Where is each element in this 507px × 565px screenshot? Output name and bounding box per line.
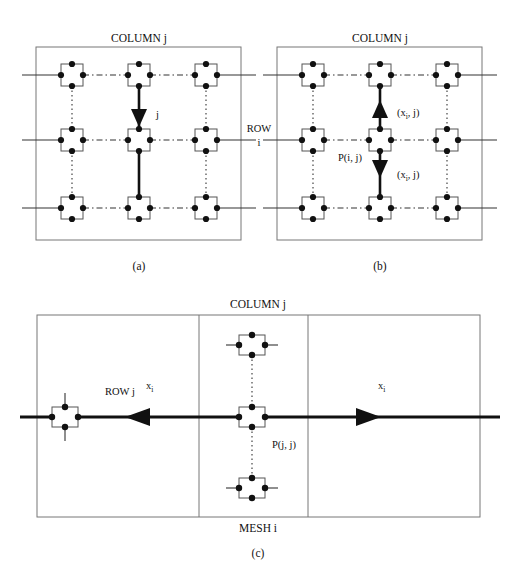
panel-a-arrow-label: j [155, 109, 159, 120]
panel-a: COLUMN j [22, 32, 256, 273]
mesh-architecture-diagram: COLUMN j [0, 0, 507, 565]
panel-b-caption: (b) [373, 260, 387, 273]
panel-c-right-arrow [356, 408, 381, 426]
panel-c-left-flow-label: xi [146, 380, 153, 394]
panel-a-cells [58, 61, 220, 222]
panel-b-up-arrow [372, 100, 388, 118]
panel-a-header: COLUMN j [111, 32, 167, 45]
panel-b-cells [299, 61, 461, 222]
panel-b-node-label: P(i, j) [338, 152, 362, 164]
panel-c-left-arrow [125, 408, 150, 426]
figure-container: COLUMN j [0, 0, 507, 565]
panel-c-row-label: ROW j [105, 386, 135, 397]
panel-a-flow-arrow [131, 109, 147, 127]
panel-c-footer: MESH i [239, 522, 277, 534]
panel-c-header: COLUMN j [230, 298, 286, 311]
panel-c-right-flow-label: xi [378, 380, 385, 394]
panel-c-cells [236, 332, 268, 501]
panel-b-down-arrow-label: (xi, j) [397, 169, 420, 183]
row-index-label: ROW i [247, 123, 272, 148]
panel-c-caption: (c) [252, 547, 265, 560]
row-label-line2: i [258, 137, 261, 148]
panel-c-cell-bottom [236, 475, 268, 501]
panel-b-down-arrow [372, 160, 388, 178]
row-label-line1: ROW [247, 123, 272, 134]
panel-b: COLUMN j [263, 32, 497, 273]
panel-c-node-label: P(j, j) [272, 439, 296, 451]
panel-b-up-arrow-label: (xi, j) [397, 107, 420, 121]
panel-c-cell-center [236, 404, 268, 430]
panel-c-cell-top [236, 332, 268, 358]
panel-c: COLUMN j ROW j xi xi [20, 298, 500, 560]
panel-c-left-cell [49, 393, 81, 441]
panel-a-caption: (a) [133, 260, 146, 273]
panel-b-header: COLUMN j [352, 32, 408, 45]
